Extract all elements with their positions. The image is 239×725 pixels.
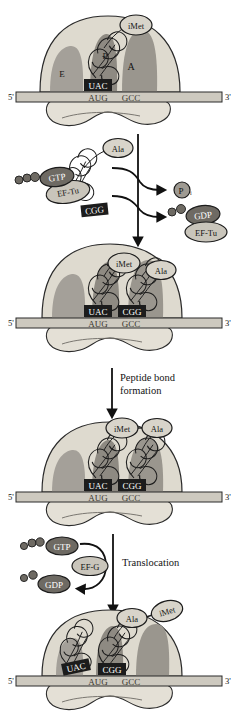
amino-acid-ala: Ala [117,609,147,628]
mrna-3-prime-label: 3' [225,92,231,102]
mrna-strand [16,318,222,328]
ef-tu-label: EF-Tu [195,228,218,238]
phosphate-circle [36,538,44,546]
mrna-5-prime-label: 5' [8,318,14,328]
phosphate-circle [177,205,186,214]
codon-gcc: GCC [122,93,141,103]
translocation-label: Translocation [122,557,180,568]
amino-acid-imet: iMet [120,15,152,35]
figure-canvas: E P A iMet UAC 5' 3' AUG GCC [0,0,239,725]
amino-acid-label: iMet [128,21,145,31]
anticodon-label: CGG [122,307,142,317]
gdp-label: GDP [45,580,63,590]
anticodon-uac: UAC [84,479,112,491]
codon-aug: AUG [88,677,108,687]
mrna-3-prime-label: 3' [225,676,231,686]
codon-aug: AUG [88,93,108,103]
anticodon-label: CGG [102,665,122,675]
phosphate-label: P [178,186,183,196]
phosphate-circle [23,174,31,182]
mrna-5-prime-label: 5' [8,492,14,502]
mrna-strand [16,676,222,686]
product-ef-tu: EF-Tu [185,222,227,242]
codon-gcc: GCC [122,493,141,503]
ef-g-label: EF-G [81,562,100,572]
anticodon-cgg: CGG [118,305,146,317]
anticodon-label: CGG [122,481,142,491]
codon-aug: AUG [88,319,108,329]
phosphate-circle [20,542,27,549]
anticodon-label: UAC [88,481,107,491]
phosphate-circle [168,208,176,216]
mrna-5-prime-label: 5' [8,676,14,686]
amino-acid-label: Ala [126,614,139,624]
mrna-3-prime-label: 3' [225,492,231,502]
phosphate-circle [20,574,27,581]
site-label-e: E [59,69,65,79]
amino-acid-ala-incoming: Ala [103,139,133,158]
anticodon-label: CGG [85,204,105,216]
anticodon-label: UAC [88,307,107,317]
anticodon-label: UAC [88,81,107,91]
phosphate-circle [15,176,23,184]
anticodon-cgg: CGG [98,663,126,675]
anticodon-cgg: CGG [118,479,146,491]
amino-acid-label: Ala [151,424,164,434]
mrna-strand [16,92,222,102]
codon-aug: AUG [88,493,108,503]
mrna-3-prime-label: 3' [225,318,231,328]
site-label-a: A [127,61,135,72]
anticodon-uac: UAC [84,79,112,91]
ef-g-factor: EF-G [72,557,108,576]
amino-acid-imet: iMet [108,253,140,273]
phosphate-circle [31,173,40,182]
phosphate-circle [29,571,37,579]
amino-acid-ala: Ala [142,419,172,438]
amino-acid-label: Ala [112,144,125,154]
amino-acid-label: iMet [114,424,131,434]
mrna-5-prime-label: 5' [8,92,14,102]
codon-gcc: GCC [122,319,141,329]
amino-acid-label: Ala [155,266,168,276]
peptide-bond-label-line2: formation [120,385,162,396]
peptide-bond-label-line1: Peptide bond [120,372,176,383]
mrna-strand [16,492,222,502]
amino-acid-imet: iMet [106,418,138,438]
gtp-label: GTP [53,542,70,552]
amino-acid-label: iMet [116,259,133,269]
codon-gcc: GCC [122,677,141,687]
amino-acid-ala: Ala [146,261,176,280]
phosphate-circle [28,539,36,547]
anticodon-uac: UAC [84,305,112,317]
gdp-label: GDP [194,210,213,222]
